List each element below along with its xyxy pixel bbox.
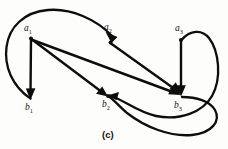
graph-canvas [0, 0, 228, 149]
node-label-a3: a3 [175, 24, 183, 35]
node-label-b2: b2 [102, 100, 110, 111]
edge-a2-to-b3 [111, 44, 176, 91]
node-dot-a3 [179, 38, 183, 42]
node-label-b3: b3 [174, 101, 182, 112]
node-dot-a2 [109, 41, 113, 45]
edge-a1-to-b2 [32, 40, 103, 93]
node-label-b1: b1 [25, 103, 33, 114]
edge-b1-to-a2 [6, 10, 111, 99]
figure-directed-graph: a1 a2 a3 b1 b2 b3 (c) [0, 0, 228, 149]
node-label-a2: a2 [104, 23, 112, 34]
node-dot-b2 [106, 94, 110, 98]
node-label-a1: a1 [24, 24, 32, 35]
figure-caption: (c) [102, 130, 114, 140]
edge-a1-to-b3 [33, 40, 175, 93]
arrowhead-into-b1 [26, 88, 36, 100]
node-dot-a1 [29, 37, 33, 41]
edge-a1-to-b1 [31, 39, 32, 93]
